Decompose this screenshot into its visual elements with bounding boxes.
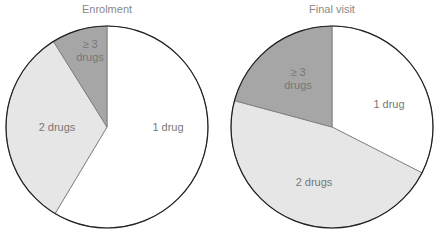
- right-label-3-drugs-b: drugs: [284, 79, 312, 91]
- left-label-2-drugs: 2 drugs: [39, 121, 76, 133]
- left-label-3-drugs-a: ≥ 3: [82, 38, 97, 50]
- final-visit-pie: [231, 26, 433, 228]
- right-label-2-drugs: 2 drugs: [296, 176, 333, 188]
- left-label-3-drugs-b: drugs: [76, 51, 104, 63]
- right-label-1-drug: 1 drug: [373, 98, 404, 110]
- right-label-3-drugs-a: ≥ 3: [290, 66, 305, 78]
- pie-charts: 1 drug 2 drugs ≥ 3 drugs 1 drug 2 drugs …: [0, 0, 437, 242]
- left-label-1-drug: 1 drug: [152, 121, 183, 133]
